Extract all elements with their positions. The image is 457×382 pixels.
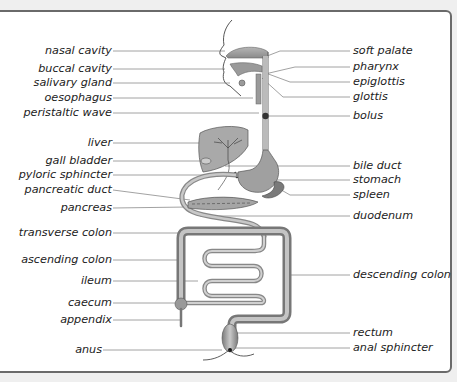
label-bolus: bolus [353, 109, 383, 122]
label-pyloric-sphincter: pyloric sphincter [19, 168, 112, 181]
gall-bladder-shape [201, 158, 211, 164]
label-duodenum: duodenum [353, 209, 413, 222]
label-epiglottis: epiglottis [353, 75, 405, 88]
label-peristaltic-wave: peristaltic wave [23, 106, 112, 119]
label-anal-sphincter: anal sphincter [353, 341, 433, 354]
label-liver: liver [88, 136, 112, 149]
label-nasal-cavity: nasal cavity [45, 44, 112, 57]
salivary-gland-shape [239, 80, 245, 86]
liver-shape [199, 126, 248, 172]
label-caecum: caecum [68, 296, 112, 309]
trachea-shape [256, 74, 261, 104]
label-pharynx: pharynx [353, 60, 399, 73]
label-anus: anus [75, 343, 102, 356]
label-ileum: ileum [81, 274, 112, 287]
label-ascending-colon: ascending colon [21, 253, 112, 266]
label-buccal-cavity: buccal cavity [38, 62, 112, 75]
label-pancreatic-duct: pancreatic duct [25, 183, 112, 196]
label-rectum: rectum [353, 326, 393, 339]
bolus-shape [262, 113, 268, 119]
label-soft-palate: soft palate [353, 44, 413, 57]
label-gall-bladder: gall bladder [46, 154, 112, 167]
ileum-shape [186, 236, 264, 303]
label-stomach: stomach [353, 173, 401, 186]
oesophagus-shape [263, 56, 268, 156]
label-appendix: appendix [60, 313, 112, 326]
label-oesophagus: oesophagus [45, 91, 112, 104]
label-descending-colon: descending colon [353, 268, 451, 281]
label-spleen: spleen [353, 188, 390, 201]
rectum-shape [222, 324, 238, 352]
stomach-shape [238, 150, 279, 192]
label-bile-duct: bile duct [353, 159, 402, 172]
label-transverse-colon: transverse colon [19, 226, 112, 239]
label-pancreas: pancreas [61, 201, 112, 214]
label-salivary-gland: salivary gland [34, 76, 112, 89]
label-glottis: glottis [353, 90, 388, 103]
nasal-cavity-shape [226, 47, 268, 58]
